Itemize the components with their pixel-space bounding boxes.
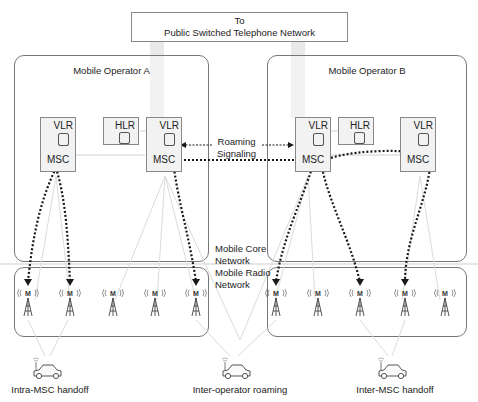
tower-icons xyxy=(18,289,456,316)
caption-inter-msc-handoff: Inter-MSC handoff xyxy=(345,384,445,395)
car-icon-roaming xyxy=(222,358,250,379)
car-icon-intra xyxy=(33,358,61,379)
caption-inter-operator-roaming: Inter-operator roaming xyxy=(180,384,300,395)
towers: M xyxy=(0,0,478,402)
car-icon-inter xyxy=(378,358,406,379)
caption-intra-msc-handoff: Intra-MSC handoff xyxy=(0,384,100,395)
